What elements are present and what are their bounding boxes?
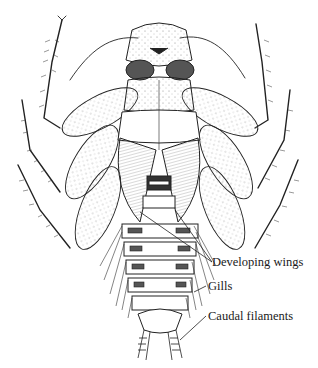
label-developing-wings: Developing wings <box>212 256 303 269</box>
terminal-segment <box>138 309 182 333</box>
leader-gills <box>194 286 206 292</box>
right-middle-leg <box>258 90 290 188</box>
illustration-canvas: Developing wings Gills Caudal filaments <box>0 0 318 368</box>
right-front-leg <box>255 24 268 128</box>
label-caudal-filaments: Caudal filaments <box>208 310 293 323</box>
left-middle-leg <box>22 100 60 192</box>
left-hind-leg <box>18 165 70 248</box>
right-hind-leg <box>255 160 298 248</box>
head <box>126 23 192 66</box>
caudal-filaments <box>138 330 182 360</box>
left-front-leg <box>44 20 62 128</box>
leader-caudal <box>180 316 206 340</box>
label-gills: Gills <box>208 280 232 293</box>
